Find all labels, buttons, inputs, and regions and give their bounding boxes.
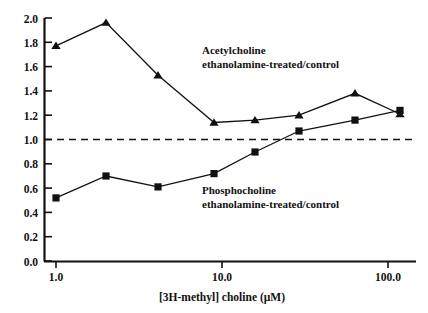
- y-tick-label-1.8: 1.8: [24, 37, 39, 49]
- acetylcholine-annotation-line2: ethanolamine-treated/control: [202, 58, 339, 70]
- phosphocholine-annotation-line1: Phosphocholine: [202, 184, 276, 196]
- phosphocholine-point-5: [295, 127, 302, 134]
- figure-container: 2.0 1.8 1.6 1.4 1.2 1.0 0.8 0.6 0.4 0.2 …: [0, 0, 428, 313]
- y-tick-label-1.0: 1.0: [24, 134, 39, 146]
- y-tick-label-0.2: 0.2: [24, 231, 39, 243]
- phosphocholine-point-7: [396, 107, 403, 114]
- y-tick-label-1.6: 1.6: [24, 61, 39, 73]
- y-tick-label-0.4: 0.4: [24, 207, 39, 219]
- x-tick-label-10.0: 10.0: [212, 271, 232, 283]
- phosphocholine-point-0: [52, 194, 59, 201]
- y-tick-label-0.8: 0.8: [24, 158, 39, 170]
- y-tick-label-2.0: 2.0: [24, 13, 39, 25]
- phosphocholine-point-2: [154, 183, 161, 190]
- phosphocholine-point-1: [102, 172, 109, 179]
- x-tick-label-1.0: 1.0: [49, 271, 64, 283]
- x-axis-title: [3H-methyl] choline (µM): [159, 291, 285, 304]
- y-tick-label-0.6: 0.6: [24, 183, 39, 195]
- phosphocholine-point-6: [351, 117, 358, 124]
- y-tick-label-1.4: 1.4: [24, 85, 39, 97]
- acetylcholine-annotation-line1: Acetylcholine: [202, 44, 266, 56]
- phosphocholine-point-3: [210, 170, 217, 177]
- y-tick-label-1.2: 1.2: [24, 110, 39, 122]
- line-chart: 2.0 1.8 1.6 1.4 1.2 1.0 0.8 0.6 0.4 0.2 …: [0, 0, 428, 313]
- x-tick-label-100.0: 100.0: [375, 271, 401, 283]
- y-tick-label-0.0: 0.0: [24, 256, 39, 268]
- phosphocholine-annotation-line2: ethanolamine-treated/control: [202, 198, 339, 210]
- phosphocholine-point-4: [251, 148, 258, 155]
